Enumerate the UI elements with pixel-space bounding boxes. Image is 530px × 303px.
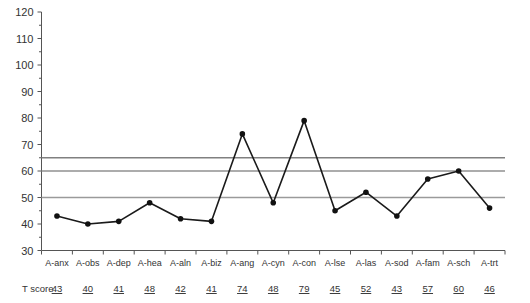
score-value-A-con: 79 — [299, 283, 310, 294]
y-tick-label: 110 — [16, 33, 34, 45]
data-point-A-aln[interactable] — [178, 216, 184, 222]
x-tick-label-group: A-anxA-obsA-depA-heaA-alnA-bizA-angA-cyn… — [45, 258, 498, 268]
data-point-A-sod[interactable] — [394, 213, 400, 219]
score-value-A-sod: 43 — [392, 283, 403, 294]
data-polyline — [57, 121, 490, 224]
data-point-A-con[interactable] — [301, 118, 307, 124]
data-point-A-trt[interactable] — [487, 205, 493, 211]
chart-canvas: 30405060708090100110120 A-anxA-obsA-depA… — [0, 0, 530, 303]
data-point-A-hea[interactable] — [147, 200, 153, 206]
data-point-A-obs[interactable] — [85, 221, 91, 227]
score-row: T score 434041484241744879455243576046 — [22, 283, 495, 294]
x-tick-label-A-biz: A-biz — [201, 258, 222, 268]
data-point-A-biz[interactable] — [209, 219, 215, 225]
data-series-group — [54, 118, 492, 227]
data-point-A-lse[interactable] — [332, 208, 338, 214]
data-point-A-anx[interactable] — [54, 213, 60, 219]
x-tick-label-A-dep: A-dep — [107, 258, 131, 268]
score-value-A-biz: 41 — [206, 283, 217, 294]
y-tick-label: 90 — [21, 86, 33, 98]
mmpi-profile-chart: 30405060708090100110120 A-anxA-obsA-depA… — [0, 0, 530, 303]
x-tick-label-A-lse: A-lse — [325, 258, 346, 268]
data-point-A-fam[interactable] — [425, 176, 431, 182]
x-tick-group — [42, 251, 506, 255]
data-point-A-ang[interactable] — [240, 131, 246, 137]
data-point-A-las[interactable] — [363, 189, 369, 195]
score-value-A-lse: 45 — [330, 283, 341, 294]
x-tick-label-A-anx: A-anx — [45, 258, 69, 268]
x-tick-label-A-cyn: A-cyn — [262, 258, 285, 268]
x-tick-label-A-trt: A-trt — [481, 258, 498, 268]
data-point-A-dep[interactable] — [116, 219, 122, 225]
score-value-A-trt: 46 — [484, 283, 495, 294]
y-tick-label: 30 — [21, 245, 33, 257]
score-value-A-dep: 41 — [113, 283, 124, 294]
x-tick-label-A-obs: A-obs — [76, 258, 100, 268]
x-tick-label-A-sod: A-sod — [385, 258, 409, 268]
x-axis — [42, 251, 506, 255]
y-tick-label: 40 — [21, 218, 33, 230]
score-value-group: 434041484241744879455243576046 — [52, 283, 495, 294]
y-tick-label: 100 — [15, 59, 33, 71]
x-tick-label-A-hea: A-hea — [138, 258, 162, 268]
y-tick-label: 70 — [21, 139, 33, 151]
score-value-A-ang: 74 — [237, 283, 248, 294]
x-tick-label-A-ang: A-ang — [230, 258, 254, 268]
x-tick-label-A-con: A-con — [292, 258, 316, 268]
score-value-A-obs: 40 — [83, 283, 94, 294]
y-tick-label: 60 — [21, 165, 33, 177]
x-tick-label-A-aln: A-aln — [170, 258, 191, 268]
score-value-A-hea: 48 — [144, 283, 155, 294]
score-value-A-fam: 57 — [422, 283, 433, 294]
y-tick-label: 50 — [21, 192, 33, 204]
y-tick-group: 30405060708090100110120 — [15, 6, 41, 257]
x-tick-label-A-fam: A-fam — [416, 258, 440, 268]
score-row-label: T score — [22, 283, 54, 294]
x-tick-label-A-las: A-las — [356, 258, 377, 268]
score-value-A-las: 52 — [361, 283, 372, 294]
data-point-A-cyn[interactable] — [270, 200, 276, 206]
y-tick-label: 120 — [15, 6, 33, 18]
x-tick-label-A-sch: A-sch — [447, 258, 470, 268]
score-value-A-sch: 60 — [453, 283, 464, 294]
y-axis: 30405060708090100110120 — [15, 6, 41, 257]
data-point-A-sch[interactable] — [456, 168, 462, 174]
score-value-A-anx: 43 — [52, 283, 63, 294]
y-tick-label: 80 — [21, 112, 33, 124]
score-value-A-aln: 42 — [175, 283, 186, 294]
score-value-A-cyn: 48 — [268, 283, 279, 294]
